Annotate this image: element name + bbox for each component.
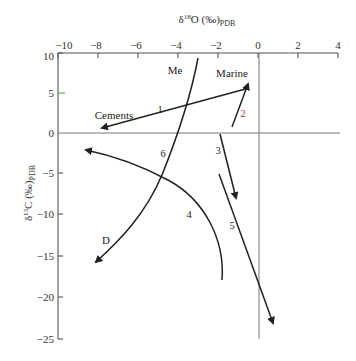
trend-line-3 (220, 134, 236, 198)
svg-text:−15: −15 (37, 250, 55, 262)
svg-text:−8: −8 (90, 39, 102, 51)
svg-text:5: 5 (49, 87, 55, 99)
label-marine: Marine (216, 67, 248, 79)
svg-text:−5: −5 (42, 167, 54, 179)
svg-text:2: 2 (295, 39, 301, 51)
label-trend-6: 6 (160, 148, 165, 159)
y-axis-title: δ13C (‰)PDB (22, 165, 37, 221)
svg-text:4: 4 (335, 39, 341, 51)
svg-text:−6: −6 (130, 39, 142, 51)
label-me: Me (168, 64, 183, 76)
y-ticks (58, 53, 65, 339)
svg-text:−4: −4 (170, 39, 182, 51)
svg-text:10: 10 (43, 50, 55, 62)
svg-text:0: 0 (255, 39, 261, 51)
svg-text:−2: −2 (210, 39, 222, 51)
svg-text:−20: −20 (37, 291, 55, 303)
label-cements: Cements (95, 109, 134, 121)
svg-text:0: 0 (49, 127, 55, 139)
label-trend-1: 1 (157, 104, 162, 115)
y-tick-labels: 10 5 0 −5 −10 −15 −20 −25 (37, 50, 55, 345)
x-axis-title: δ18O (‰)PDB (179, 13, 236, 28)
isotope-crossplot: δ18O (‰)PDB −10 −8 −6 −4 −2 0 2 4 10 5 0 (0, 0, 356, 361)
label-trend-3: 3 (215, 145, 220, 156)
x-ticks (58, 53, 338, 58)
label-trend-5: 5 (229, 220, 234, 231)
label-d: D (102, 234, 110, 246)
trend-curve-4 (86, 150, 222, 280)
x-tick-labels: −10 −8 −6 −4 −2 0 2 4 (55, 39, 341, 51)
svg-text:−10: −10 (37, 208, 55, 220)
svg-text:−10: −10 (55, 39, 73, 51)
trend-curve-6 (96, 58, 198, 262)
label-trend-2: 2 (240, 108, 245, 119)
trend-line-5 (219, 174, 273, 323)
label-trend-4: 4 (186, 209, 192, 220)
svg-text:−25: −25 (37, 333, 55, 345)
trend-line-1 (102, 88, 249, 128)
